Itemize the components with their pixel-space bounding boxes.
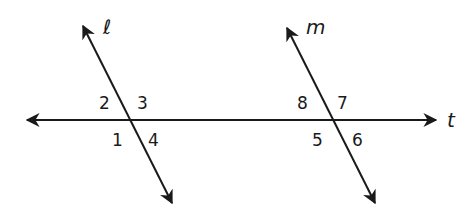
angle-7-label: 7 xyxy=(337,93,348,113)
angle-2-label: 2 xyxy=(99,93,110,113)
line-l-label: ℓ xyxy=(102,15,111,39)
line-t-label: t xyxy=(447,108,456,132)
angle-6-label: 6 xyxy=(352,130,363,150)
angle-1-label: 1 xyxy=(112,130,123,150)
angle-4-label: 4 xyxy=(148,130,159,150)
line-l xyxy=(83,26,172,203)
angle-8-label: 8 xyxy=(297,93,308,113)
transversal-diagram: ℓ m t 1 2 3 4 5 6 7 8 xyxy=(0,0,468,221)
line-m xyxy=(287,28,375,203)
angle-5-label: 5 xyxy=(312,130,323,150)
line-m-label: m xyxy=(306,15,325,39)
angle-3-label: 3 xyxy=(137,93,148,113)
